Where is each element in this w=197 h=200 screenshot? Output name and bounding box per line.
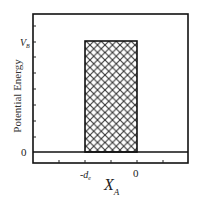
potential-barrier — [85, 41, 137, 152]
y-tick-label-zero: 0 — [21, 146, 27, 158]
x-tick-label-de: -de — [80, 169, 91, 181]
x-axis-title: XA — [103, 176, 120, 197]
y-tick-label-vb: VB — [20, 37, 30, 49]
y-axis-title: Potential Energy — [11, 59, 23, 133]
potential-energy-chart: VB 0 Potential Energy -de 0 XA — [0, 0, 197, 200]
x-tick-label-zero: 0 — [133, 167, 139, 179]
